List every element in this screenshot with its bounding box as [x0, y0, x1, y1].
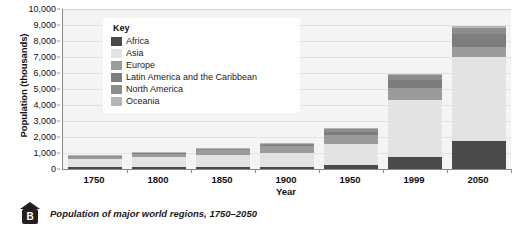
bar-segment — [452, 47, 506, 57]
legend-swatch-icon — [111, 73, 122, 82]
y-tick-label: 6,000 — [33, 69, 56, 78]
legend-item-label: Asia — [126, 49, 144, 58]
bar-segment — [452, 28, 506, 34]
legend-item-europe[interactable]: Europe — [111, 59, 292, 71]
bar-1999 — [388, 74, 442, 169]
figure-container: Population (thousands) 01,0002,0003,0004… — [0, 0, 523, 230]
legend-item-label: Latin America and the Caribbean — [126, 73, 257, 82]
bar-1750 — [68, 156, 122, 169]
x-tick-label-1800: 1800 — [131, 174, 185, 185]
x-tick-mark — [511, 169, 512, 173]
y-tick-mark — [57, 57, 60, 58]
bar-segment — [68, 159, 122, 167]
bar-segment — [388, 74, 442, 75]
bar-segment — [196, 167, 250, 169]
bar-1950 — [324, 129, 378, 169]
legend-item-latin-america-and-the-caribbean[interactable]: Latin America and the Caribbean — [111, 71, 292, 83]
bar-1850 — [196, 149, 250, 169]
bar-segment — [452, 34, 506, 47]
bar-segment — [324, 135, 378, 144]
x-tick-label-1999: 1999 — [387, 174, 441, 185]
bar-segment — [388, 80, 442, 88]
x-tick-mark — [127, 169, 128, 173]
legend-item-label: Oceania — [126, 97, 160, 106]
legend-swatch-icon — [111, 97, 122, 106]
bar-2050 — [452, 27, 506, 169]
y-tick-mark — [57, 105, 60, 106]
legend-item-label: North America — [126, 85, 183, 94]
bar-segment — [68, 157, 122, 160]
y-tick-mark — [57, 9, 60, 10]
bar-segment — [260, 167, 314, 169]
bar-segment — [260, 153, 314, 167]
bar-segment — [260, 143, 314, 144]
bar-segment — [196, 155, 250, 168]
bar-segment — [132, 152, 186, 153]
legend-item-oceania[interactable]: Oceania — [111, 95, 292, 107]
bar-segment — [324, 132, 378, 135]
x-tick-label-1750: 1750 — [67, 174, 121, 185]
bar-segment — [196, 150, 250, 154]
y-tick-mark — [57, 169, 60, 170]
x-tick-mark — [319, 169, 320, 173]
x-tick-label-1950: 1950 — [323, 174, 377, 185]
x-tick-label-1900: 1900 — [259, 174, 313, 185]
legend-title: Key — [113, 23, 292, 33]
bar-segment — [324, 129, 378, 132]
stacked-bar-chart: Population (thousands) 01,0002,0003,0004… — [0, 0, 523, 196]
x-tick-mark — [447, 169, 448, 173]
legend-item-label: Africa — [126, 37, 149, 46]
legend-swatch-icon — [111, 49, 122, 58]
x-tick-label-2050: 2050 — [451, 174, 505, 185]
roof-chevron-icon — [20, 202, 40, 209]
bar-segment — [68, 155, 122, 156]
x-tick-mark — [191, 169, 192, 173]
y-tick-label: 4,000 — [33, 101, 56, 110]
y-tick-label: 5,000 — [33, 85, 56, 94]
bar-segment — [132, 167, 186, 169]
bar-1900 — [260, 144, 314, 169]
bar-segment — [324, 144, 378, 166]
badge-letter: B — [22, 209, 38, 224]
y-tick-mark — [57, 73, 60, 74]
x-tick-mark — [255, 169, 256, 173]
legend-swatch-icon — [111, 85, 122, 94]
legend-item-asia[interactable]: Asia — [111, 47, 292, 59]
caption-text: Population of major world regions, 1750–… — [50, 208, 257, 219]
gridline — [63, 121, 511, 122]
y-tick-mark — [57, 137, 60, 138]
legend-items: AfricaAsiaEuropeLatin America and the Ca… — [111, 35, 292, 107]
gridline — [63, 9, 511, 10]
legend-swatch-icon — [111, 61, 122, 70]
legend-item-africa[interactable]: Africa — [111, 35, 292, 47]
y-tick-mark — [57, 41, 60, 42]
bar-segment — [260, 144, 314, 145]
y-tick-label: 9,000 — [33, 21, 56, 30]
bar-segment — [388, 75, 442, 80]
bar-segment — [452, 57, 506, 141]
y-tick-mark — [57, 121, 60, 122]
y-tick-label: 2,000 — [33, 133, 56, 142]
bar-segment — [452, 141, 506, 169]
y-tick-label: 10,000 — [28, 5, 56, 14]
figure-caption: B Population of major world regions, 175… — [0, 196, 523, 230]
bar-segment — [196, 148, 250, 149]
y-tick-mark — [57, 89, 60, 90]
y-axis-ticks: 01,0002,0003,0004,0005,0006,0007,0008,00… — [18, 9, 60, 169]
bar-segment — [324, 128, 378, 129]
legend-box: Key AfricaAsiaEuropeLatin America and th… — [103, 18, 300, 113]
bar-segment — [260, 145, 314, 146]
y-tick-label: 0 — [51, 165, 56, 174]
y-tick-mark — [57, 153, 60, 154]
legend-item-label: Europe — [126, 61, 155, 70]
x-tick-mark — [383, 169, 384, 173]
bar-segment — [388, 88, 442, 100]
bar-segment — [260, 146, 314, 152]
y-tick-label: 3,000 — [33, 117, 56, 126]
x-tick-label-1850: 1850 — [195, 174, 249, 185]
y-tick-label: 1,000 — [33, 149, 56, 158]
bar-segment — [68, 167, 122, 169]
legend-item-north-america[interactable]: North America — [111, 83, 292, 95]
y-tick-label: 8,000 — [33, 37, 56, 46]
bar-segment — [132, 157, 186, 167]
